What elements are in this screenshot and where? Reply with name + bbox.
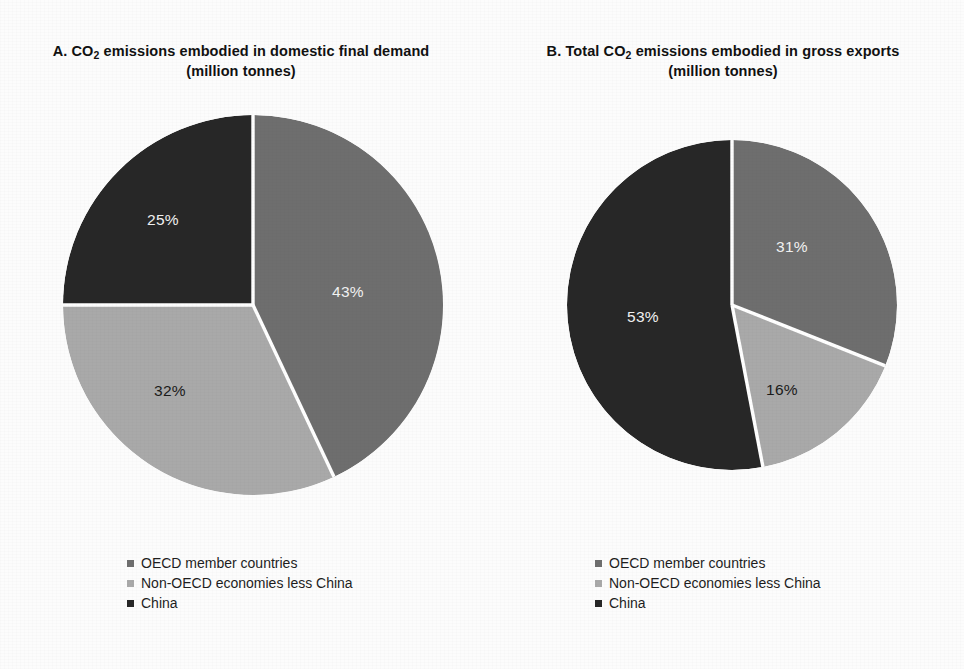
panel-a: A. CO2 emissions embodied in domestic fi…	[0, 0, 482, 669]
panel-b-legend-item-oecd[interactable]: OECD member countries	[595, 553, 821, 573]
panel-a-legend-label-oecd: OECD member countries	[141, 553, 297, 573]
panel-b-legend-label-china: China	[609, 593, 646, 613]
panel-a-slice-china[interactable]	[63, 115, 253, 305]
panel-b-legend-label-non-oecd: Non-OECD economies less China	[609, 573, 821, 593]
panel-b-title-unit: (million tonnes)	[482, 62, 964, 81]
panel-b-legend-label-oecd: OECD member countries	[609, 553, 765, 573]
panel-b-title-post: emissions embodied in gross exports	[632, 43, 900, 59]
legend-swatch-china-icon	[127, 600, 134, 607]
panel-a-title: A. CO2 emissions embodied in domestic fi…	[0, 42, 482, 81]
panel-b-title: B. Total CO2 emissions embodied in gross…	[482, 42, 964, 81]
panel-a-legend-item-oecd[interactable]: OECD member countries	[127, 553, 353, 573]
panel-b-legend-item-non-oecd[interactable]: Non-OECD economies less China	[595, 573, 821, 593]
panel-b-title-pre: B. Total CO	[547, 43, 626, 59]
panel-a-legend: OECD member countries Non-OECD economies…	[127, 553, 353, 613]
panel-a-legend-label-china: China	[141, 593, 178, 613]
panel-b-legend-item-china[interactable]: China	[595, 593, 821, 613]
panel-b-legend: OECD member countries Non-OECD economies…	[595, 553, 821, 613]
legend-swatch-non-oecd-icon	[127, 580, 134, 587]
panel-b-title-subscript: 2	[626, 49, 632, 61]
panel-a-title-subscript: 2	[93, 49, 99, 61]
panel-a-label-china: 25%	[147, 211, 179, 229]
panel-a-legend-item-china[interactable]: China	[127, 593, 353, 613]
panel-a-title-pre: A. CO	[53, 43, 94, 59]
legend-swatch-china-icon	[595, 600, 602, 607]
panel-b-label-china: 53%	[627, 308, 659, 326]
panel-b-label-non-oecd: 16%	[766, 381, 798, 399]
panel-a-legend-label-non-oecd: Non-OECD economies less China	[141, 573, 353, 593]
panel-b-pie	[567, 140, 897, 470]
panel-a-title-unit: (million tonnes)	[0, 62, 482, 81]
panel-a-legend-item-non-oecd[interactable]: Non-OECD economies less China	[127, 573, 353, 593]
panel-a-title-post: emissions embodied in domestic final dem…	[99, 43, 429, 59]
panel-a-pie-area: 43% 32% 25%	[63, 115, 443, 495]
panel-a-pie	[63, 115, 443, 495]
panel-b-label-oecd: 31%	[776, 238, 808, 256]
panel-a-label-non-oecd: 32%	[154, 382, 186, 400]
panel-b: B. Total CO2 emissions embodied in gross…	[482, 0, 964, 669]
panel-b-pie-area: 31% 16% 53%	[567, 140, 897, 470]
legend-swatch-oecd-icon	[595, 560, 602, 567]
panel-a-label-oecd: 43%	[332, 283, 364, 301]
legend-swatch-non-oecd-icon	[595, 580, 602, 587]
figure-two-pie-charts: A. CO2 emissions embodied in domestic fi…	[0, 0, 964, 669]
legend-swatch-oecd-icon	[127, 560, 134, 567]
